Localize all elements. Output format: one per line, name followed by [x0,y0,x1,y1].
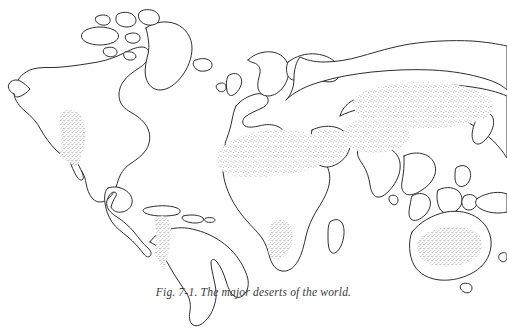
landmass-ireland [216,83,226,92]
figure-caption: Fig. 7-1. The major deserts of the world… [0,286,507,298]
landmass-new-zealand-north [499,253,507,262]
landmass-sumatra [409,194,430,221]
landmass-sulawesi [462,195,477,210]
landmass-sri-lanka [389,195,398,205]
landmass-india [357,146,400,197]
landmass-borneo [437,188,462,214]
landmass-puerto-rico [205,218,215,223]
landmass-arctic-island-7 [124,52,136,60]
landmass-southeast-asia [402,153,436,195]
landmass-hispaniola [182,215,204,223]
landmass-cuba [143,206,180,216]
landmass-philippines [455,166,471,187]
landmass-arctic-island-6 [103,47,117,57]
landmass-greenland [145,22,192,90]
landmass-arctic-island-2 [116,12,136,27]
landmass-great-britain [226,74,241,96]
landmass-scandinavia [248,52,289,96]
landmass-arctic-island-1 [82,27,119,45]
landmass-madagascar [328,220,344,254]
landmass-arctic-island-3 [95,15,110,25]
world-map [0,0,507,330]
landmass-central-america [105,187,151,257]
figure-root: Fig. 7-1. The major deserts of the world… [0,0,507,330]
landmass-iceland [193,59,212,72]
landmass-arctic-island-5 [125,33,140,43]
landmass-arctic-island-4 [138,10,159,26]
desert-atacama-patagonia [149,216,171,291]
landmass-new-guinea [476,192,507,213]
desert-turkestan-gobi-taklamakan [353,82,493,128]
